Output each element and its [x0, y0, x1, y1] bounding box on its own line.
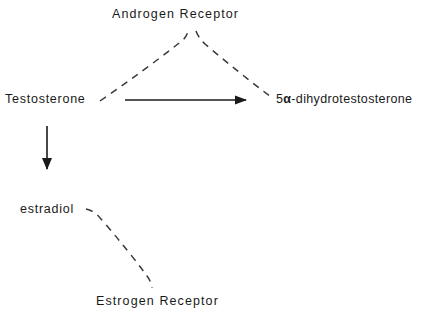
node-label-estradiol: estradiol	[20, 203, 74, 216]
node-label-estrogen-receptor: Estrogen Receptor	[96, 295, 219, 308]
edge-estradiol-to-estrogen-receptor	[86, 209, 152, 288]
node-label-dihydrotestosterone: 5α-dihydrotestosterone	[276, 93, 412, 106]
diagram-edges	[0, 0, 440, 316]
pathway-diagram: Androgen Receptor Testosterone 5α-dihydr…	[0, 0, 440, 316]
edge-testosterone-to-androgen-receptor	[100, 31, 188, 101]
edge-dht-to-androgen-receptor	[196, 31, 271, 97]
node-label-androgen-receptor: Androgen Receptor	[112, 8, 239, 21]
node-label-testosterone: Testosterone	[5, 93, 86, 106]
dht-suffix: -dihydrotestosterone	[291, 92, 412, 106]
